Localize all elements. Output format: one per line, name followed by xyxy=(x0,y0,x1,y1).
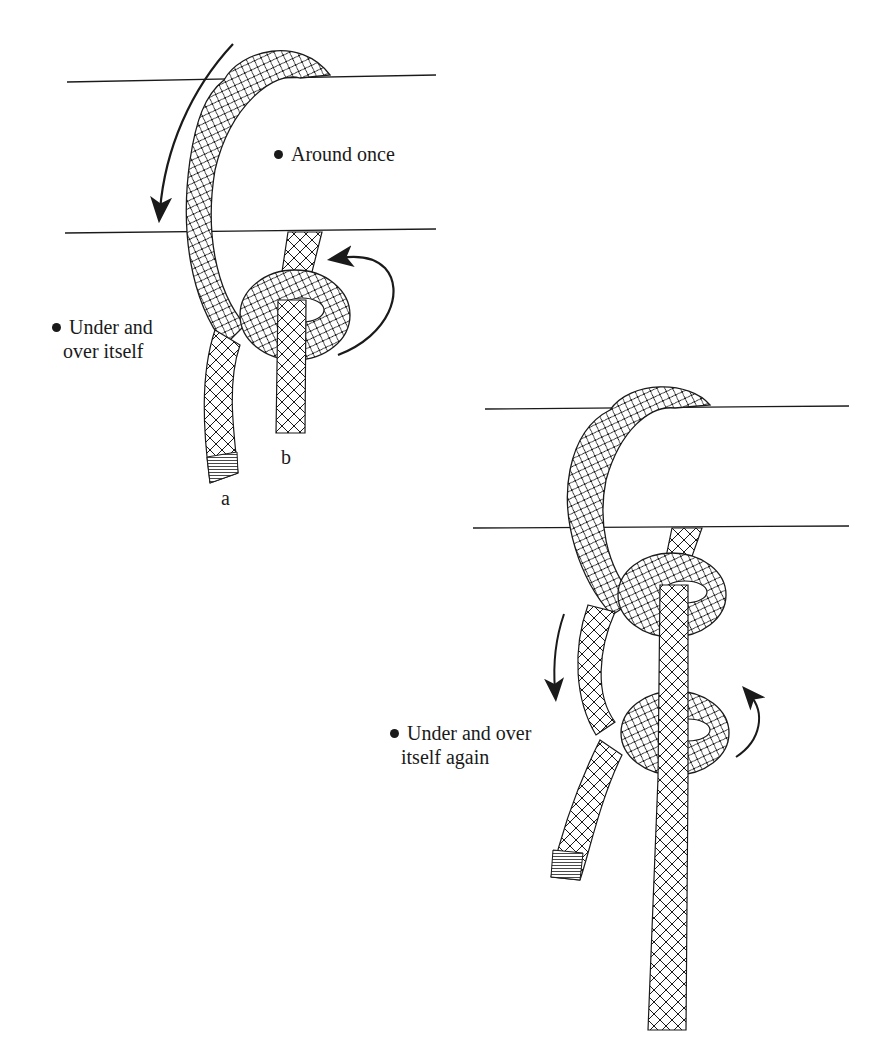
rope-end-b xyxy=(276,300,306,433)
label-text-line1: Under and xyxy=(69,316,153,338)
label-under-and-over-itself: Under and over itself xyxy=(52,315,153,363)
bullet-icon xyxy=(390,729,399,738)
panel-2 xyxy=(473,387,849,1030)
label-text-line2: itself again xyxy=(390,745,531,769)
rope-standing xyxy=(648,585,688,1030)
label-text-line1: Under and over xyxy=(407,722,531,744)
label-text: Around once xyxy=(291,143,395,165)
label-around-once: Around once xyxy=(274,142,395,166)
bullet-icon xyxy=(274,150,283,159)
pole-bottom-edge xyxy=(473,526,849,528)
label-under-and-over-itself-again: Under and over itself again xyxy=(390,721,531,769)
end-label-a: a xyxy=(221,487,230,510)
arrow-up-icon xyxy=(736,695,759,757)
pole-bottom-edge xyxy=(65,229,436,233)
arrow-down-icon xyxy=(554,614,564,690)
bullet-icon xyxy=(52,323,61,332)
knot-illustration xyxy=(0,0,890,1055)
panel-1 xyxy=(65,44,436,483)
rope-end-b-upper xyxy=(282,232,322,272)
rope-end-a-whipping xyxy=(207,452,238,483)
end-label-b: b xyxy=(281,446,291,469)
rope-working-middle xyxy=(578,605,615,735)
rope-working-end-whipping xyxy=(551,850,583,880)
label-text-line2: over itself xyxy=(52,339,153,363)
